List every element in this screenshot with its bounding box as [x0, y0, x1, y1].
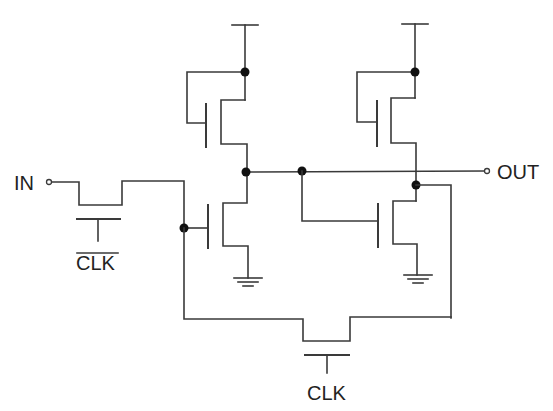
circuit-diagram: IN CLK — [0, 0, 553, 411]
clk-label: CLK — [307, 382, 347, 404]
input-pass-transistor — [52, 181, 184, 241]
output-wire — [247, 171, 484, 172]
pmos-right — [357, 24, 428, 201]
ground-right-icon — [404, 275, 432, 283]
output-terminal — [485, 169, 490, 174]
input-label: IN — [14, 172, 34, 194]
nmos-left — [180, 172, 263, 286]
output-label: OUT — [497, 161, 539, 183]
feedback-pass-transistor — [184, 228, 451, 373]
nmos-right — [302, 171, 451, 318]
input-terminal — [47, 180, 52, 185]
pmos-left — [187, 25, 258, 172]
clk-bar-label: CLK — [76, 252, 116, 274]
ground-left-icon — [234, 278, 262, 286]
